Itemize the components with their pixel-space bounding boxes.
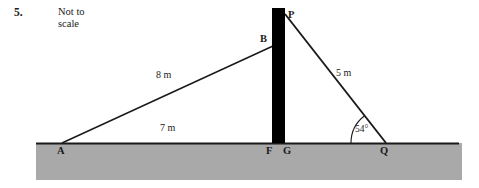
- ground-shading: [36, 143, 462, 180]
- length-label-ab: 8 m: [156, 69, 171, 80]
- not-to-scale-line1: Not to: [58, 6, 85, 17]
- not-to-scale-line2: scale: [58, 18, 79, 29]
- not-to-scale-note: Not to scale: [58, 6, 85, 30]
- point-label-p: P: [288, 9, 294, 21]
- point-label-q: Q: [380, 145, 388, 157]
- angle-label-q: 54°: [355, 124, 368, 135]
- geometry-diagram: 5. Not to scale P B A F G Q 8 m 7 m 5 m …: [0, 0, 479, 188]
- length-label-af: 7 m: [160, 122, 175, 133]
- length-label-pq: 5 m: [336, 67, 351, 78]
- point-label-b: B: [260, 33, 267, 45]
- point-label-g: G: [283, 145, 291, 157]
- vertical-tower: [272, 8, 285, 143]
- segment-pq: [285, 14, 386, 143]
- point-label-f: F: [266, 145, 272, 157]
- question-number: 5.: [14, 6, 23, 19]
- point-label-a: A: [57, 145, 65, 157]
